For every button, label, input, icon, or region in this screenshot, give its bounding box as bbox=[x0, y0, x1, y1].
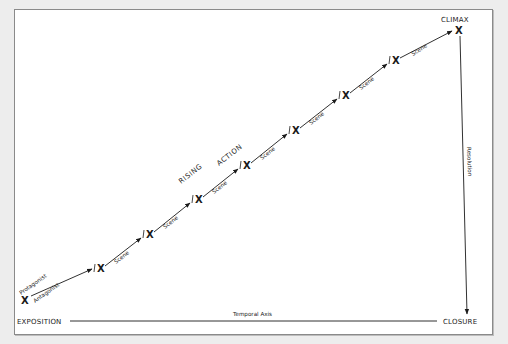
scene-x-mark: X bbox=[243, 160, 251, 171]
exposition-label: EXPOSITION bbox=[17, 318, 62, 326]
scene-x-mark: X bbox=[292, 125, 300, 136]
plot-diagram: Temporal Axis EXPOSITION CLOSURE CLIMAX … bbox=[0, 0, 508, 344]
scene-x-mark: X bbox=[195, 194, 203, 205]
scene-label: Scene bbox=[211, 179, 229, 195]
scene-label: Scene bbox=[113, 249, 131, 265]
scene-node-5: X Scene bbox=[289, 99, 337, 136]
scene-label: Scene bbox=[162, 214, 180, 230]
rising-label: RISING bbox=[177, 162, 204, 185]
resolution-label: Resolution bbox=[466, 147, 473, 177]
temporal-axis-label: Temporal Axis bbox=[232, 311, 272, 318]
protagonist-x-mark: X bbox=[21, 295, 29, 306]
scene-x-mark: X bbox=[392, 55, 400, 66]
scene-x-mark: X bbox=[342, 90, 350, 101]
scene-x-mark: X bbox=[146, 229, 154, 240]
scene-label: Scene bbox=[259, 145, 277, 161]
scene-node-3: X Scene bbox=[192, 169, 238, 205]
closure-label: CLOSURE bbox=[443, 318, 477, 326]
climax-label: CLIMAX bbox=[441, 16, 469, 24]
scene-label: Scene bbox=[358, 75, 376, 91]
scene-node-4: X Scene bbox=[240, 134, 287, 171]
scene-node-2: X Scene bbox=[143, 203, 190, 240]
scene-node-1: X Scene bbox=[94, 238, 141, 274]
scene-node-6: X Scene bbox=[339, 64, 387, 101]
action-label: ACTION bbox=[215, 143, 244, 168]
scene-label: Scene bbox=[410, 42, 428, 57]
scene-x-mark: X bbox=[97, 263, 105, 274]
scene-label: Scene bbox=[308, 110, 326, 126]
climax-x-mark: X bbox=[455, 25, 463, 36]
resolution-arrow bbox=[460, 36, 467, 314]
scene-node-7: X Scene bbox=[389, 31, 452, 66]
